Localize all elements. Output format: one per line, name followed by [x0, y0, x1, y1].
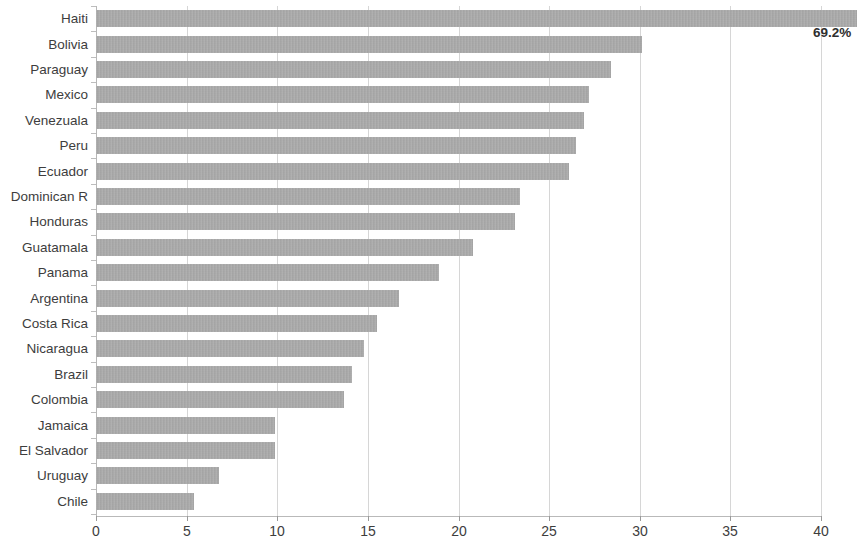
y-axis-category-label: Bolivia	[0, 37, 88, 52]
y-axis-category-label: Jamaica	[0, 418, 88, 433]
bar	[96, 163, 569, 180]
y-axis-category-label: Dominican R	[0, 189, 88, 204]
bar	[96, 10, 857, 27]
x-axis-tick-mark	[459, 516, 460, 521]
y-axis-category-label: Colombia	[0, 392, 88, 407]
y-axis-category-label: Peru	[0, 138, 88, 153]
data-label-annotation: 69.2%	[813, 25, 851, 41]
bar	[96, 442, 275, 459]
y-axis-category-label: Ecuador	[0, 164, 88, 179]
x-axis-tick-mark	[730, 516, 731, 521]
bar	[96, 36, 642, 53]
y-axis-category-label: Guatamala	[0, 240, 88, 255]
bar	[96, 467, 219, 484]
x-axis-tick-label: 15	[360, 523, 376, 540]
x-axis-tick-label: 10	[269, 523, 285, 540]
bar	[96, 86, 589, 103]
bar	[96, 493, 194, 510]
y-axis-category-label: Chile	[0, 494, 88, 509]
bar-chart: HaitiBoliviaParaguayMexicoVenezualaPeruE…	[0, 0, 857, 546]
bar	[96, 188, 520, 205]
x-axis-tick-label: 0	[92, 523, 100, 540]
bar	[96, 290, 399, 307]
x-axis-tick-label: 5	[183, 523, 191, 540]
bar	[96, 391, 344, 408]
x-axis-tick-label: 25	[541, 523, 557, 540]
y-axis-category-label: Venezuala	[0, 113, 88, 128]
y-axis-category-label: Honduras	[0, 214, 88, 229]
x-axis-tick-mark	[96, 516, 97, 521]
x-axis-tick-label: 20	[451, 523, 467, 540]
bar	[96, 366, 352, 383]
bar	[96, 417, 275, 434]
y-axis-category-label: Panama	[0, 265, 88, 280]
y-axis-category-label: Mexico	[0, 87, 88, 102]
x-axis-tick-mark	[821, 516, 822, 521]
bar	[96, 239, 473, 256]
y-axis-category-label: Haiti	[0, 11, 88, 26]
y-axis-category-label: Paraguay	[0, 62, 88, 77]
x-axis-tick-mark	[368, 516, 369, 521]
y-axis-category-label: Brazil	[0, 367, 88, 382]
x-axis-tick-mark	[187, 516, 188, 521]
y-axis-category-label: Uruguay	[0, 468, 88, 483]
x-axis-tick-label: 30	[632, 523, 648, 540]
bar	[96, 264, 439, 281]
plot-area	[96, 6, 857, 516]
bar	[96, 213, 515, 230]
x-axis-tick-label: 35	[722, 523, 738, 540]
y-axis-category-label: Nicaragua	[0, 341, 88, 356]
y-axis-category-label: Argentina	[0, 291, 88, 306]
bar	[96, 340, 364, 357]
bar	[96, 61, 611, 78]
y-axis-category-label: Costa Rica	[0, 316, 88, 331]
x-axis-tick-mark	[277, 516, 278, 521]
bar	[96, 137, 576, 154]
y-axis-category-labels: HaitiBoliviaParaguayMexicoVenezualaPeruE…	[0, 0, 88, 546]
bar	[96, 315, 377, 332]
x-axis-tick-mark	[640, 516, 641, 521]
x-axis-tick-mark	[549, 516, 550, 521]
bar	[96, 112, 584, 129]
y-axis-category-label: El Salvador	[0, 443, 88, 458]
x-axis-tick-label: 40	[813, 523, 829, 540]
